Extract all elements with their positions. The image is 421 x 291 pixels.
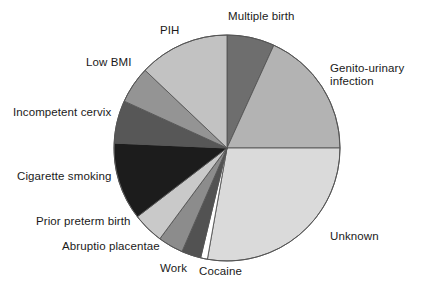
slice-label-genito-line-2: infection xyxy=(330,75,374,87)
slice-label-abruptio-placentae: Abruptio placentae xyxy=(62,240,160,253)
slice-label-multiple-birth: Multiple birth xyxy=(228,10,295,23)
pie-slice-group xyxy=(114,35,340,261)
slice-label-low-bmi: Low BMI xyxy=(86,56,131,69)
slice-label-pih: PIH xyxy=(160,24,179,37)
slice-label-genito-urinary-infection: Genito-urinary infection xyxy=(330,62,421,88)
pie-slice-unknown[interactable] xyxy=(207,148,340,261)
slice-label-genito-line-1: Genito-urinary xyxy=(330,62,404,74)
slice-label-cocaine: Cocaine xyxy=(199,265,242,278)
slice-label-work: Work xyxy=(160,262,187,275)
slice-label-prior-preterm-birth: Prior preterm birth xyxy=(36,215,131,228)
slice-label-incompetent-cervix: Incompetent cervix xyxy=(13,106,111,119)
slice-label-cigarette-smoking: Cigarette smoking xyxy=(17,170,111,183)
slice-label-unknown: Unknown xyxy=(330,230,379,243)
pie-chart-figure: Multiple birth Genito-urinary infection … xyxy=(0,0,421,291)
